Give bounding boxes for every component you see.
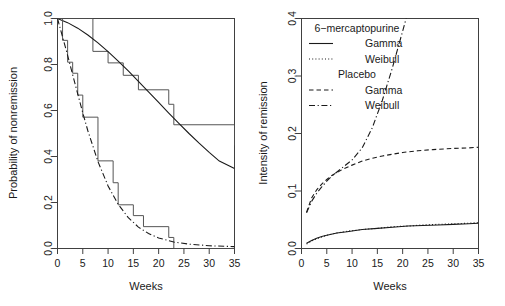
y-tick-label: 1.0 [42,11,54,26]
y-tick-label: 0.4 [42,149,54,164]
survival-analysis-figure: 051015202530350.00.20.40.60.81.0 Weeks P… [0,0,505,306]
y-tick-label: 0.6 [42,103,54,118]
x-tick-label: 0 [299,257,305,269]
x-tick-label: 25 [178,257,190,269]
right-panel-axis-decorations: 051015202530350.00.10.20.30.4 [286,11,485,268]
x-tick-label: 20 [153,257,165,269]
left-panel-series-group [58,19,235,249]
legend-entry-label: Gamma [365,84,403,96]
x-tick-label: 5 [80,257,86,269]
x-tick-label: 35 [229,257,241,269]
x-tick-label: 30 [203,257,215,269]
data-series-line [307,147,479,212]
right-panel-legend: 6−mercaptopurineGammaWeibullPlaceboGamma… [309,22,403,112]
y-tick-label: 0.4 [286,11,298,26]
y-tick-label: 0.0 [286,241,298,256]
left-panel-x-axis-title: Weeks [129,280,163,292]
y-tick-label: 0.3 [286,69,298,84]
data-series-line [58,19,235,146]
x-tick-label: 15 [372,257,384,269]
y-tick-label: 0.1 [286,184,298,199]
right-panel-x-axis-title: Weeks [373,280,407,292]
right-panel-y-axis-title: Intensity of remission [257,81,269,184]
x-tick-label: 30 [447,257,459,269]
data-series-line [58,19,235,249]
left-panel-y-axis-title: Probability of nonremission [7,67,19,199]
legend-entry-label: Weibull [365,99,399,111]
x-tick-label: 0 [55,257,61,269]
x-tick-label: 20 [397,257,409,269]
right-panel-intensity-of-remission: 051015202530350.00.10.20.30.4 6−mercapto… [253,0,505,306]
legend-entry-label: 6−mercaptopurine [315,22,400,34]
y-tick-label: 0.8 [42,57,54,72]
x-tick-label: 35 [473,257,485,269]
x-tick-label: 10 [346,257,358,269]
data-series-line [307,223,479,243]
x-tick-label: 5 [324,257,330,269]
legend-entry-label: Gamma [365,37,403,49]
data-series-line [58,19,235,169]
x-tick-label: 15 [128,257,140,269]
left-panel-probability-of-nonremission: 051015202530350.00.20.40.60.81.0 Weeks P… [0,0,253,306]
left-plot-frame [58,19,235,249]
x-tick-label: 10 [102,257,114,269]
left-panel-axes [58,19,235,249]
x-tick-label: 25 [422,257,434,269]
y-tick-label: 0.2 [42,195,54,210]
y-tick-label: 0.2 [286,126,298,141]
legend-entry-label: Weibull [365,53,399,65]
y-tick-label: 0.0 [42,241,54,256]
left-panel-axis-decorations: 051015202530350.00.20.40.60.81.0 [42,11,241,268]
data-series-line [58,19,235,247]
legend-entry-label: Placebo [338,68,376,80]
data-series-line [307,223,479,244]
